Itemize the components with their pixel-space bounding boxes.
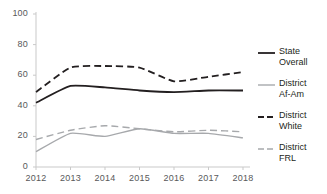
x-tick-label: 2016: [157, 173, 191, 183]
legend-label: District White: [279, 110, 307, 131]
y-tick-label: 100: [4, 8, 28, 18]
x-tick-label: 2013: [54, 173, 88, 183]
y-tick-label: 40: [4, 100, 28, 110]
series-line-district-frl: [36, 126, 243, 140]
legend-item-district-white[interactable]: District White: [258, 110, 327, 134]
legend-label: District Af-Am: [279, 78, 307, 99]
legend-item-district-af-am[interactable]: District Af-Am: [258, 78, 327, 102]
x-tick-label: 2012: [19, 173, 53, 183]
legend-label: State Overall: [279, 46, 308, 67]
line-chart: 020406080100 201220132014201520162017201…: [0, 0, 327, 194]
series-line-district-af-am: [36, 129, 243, 152]
y-tick-label: 20: [4, 130, 28, 140]
legend-line-swatch-icon: [258, 111, 275, 123]
y-tick-label: 80: [4, 39, 28, 49]
legend-line-swatch-icon: [258, 47, 275, 59]
legend-line-swatch-icon: [258, 143, 275, 155]
y-tick-label: 60: [4, 69, 28, 79]
legend-line-swatch-icon: [258, 79, 275, 91]
x-tick-label: 2014: [88, 173, 122, 183]
chart-legend: State OverallDistrict Af-AmDistrict Whit…: [258, 46, 327, 174]
series-line-state-overall: [36, 86, 243, 103]
legend-item-state-overall[interactable]: State Overall: [258, 46, 327, 70]
y-tick-label: 0: [4, 161, 28, 171]
legend-item-district-frl[interactable]: District FRL: [258, 142, 327, 166]
x-tick-label: 2015: [123, 173, 157, 183]
legend-label: District FRL: [279, 142, 307, 163]
x-tick-label: 2018: [226, 173, 260, 183]
series-line-district-white: [36, 66, 243, 92]
x-tick-label: 2017: [192, 173, 226, 183]
data-series-group: [36, 66, 243, 152]
